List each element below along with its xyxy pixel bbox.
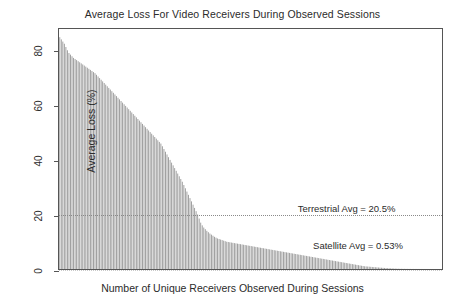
- bar: [168, 157, 169, 269]
- bar: [286, 252, 287, 269]
- bar: [131, 112, 132, 269]
- bar: [311, 257, 312, 269]
- y-tick-label: 0: [29, 258, 47, 284]
- bar: [130, 111, 131, 269]
- bar: [281, 252, 282, 269]
- bar: [346, 263, 347, 269]
- bar: [248, 246, 249, 269]
- y-tick-label: 40: [29, 148, 47, 174]
- bar: [79, 62, 80, 269]
- bar: [262, 248, 263, 269]
- bar: [280, 251, 281, 269]
- bar: [59, 37, 60, 269]
- bar: [217, 238, 218, 269]
- bar: [239, 244, 240, 269]
- bar: [124, 104, 125, 269]
- y-tick-label: 80: [29, 38, 47, 64]
- bar: [167, 154, 168, 269]
- bar: [197, 214, 198, 269]
- y-axis-label: Average Loss (%): [85, 51, 97, 211]
- bar: [321, 259, 322, 269]
- terrestrial-average-line: [59, 215, 442, 216]
- bar: [154, 137, 155, 269]
- bar: [128, 109, 129, 269]
- bar: [208, 232, 209, 269]
- bar: [232, 243, 233, 269]
- bar: [72, 56, 73, 269]
- bar: [147, 129, 148, 269]
- bar: [317, 258, 318, 269]
- bar: [160, 144, 161, 269]
- bar: [191, 201, 192, 269]
- bar: [245, 245, 246, 269]
- bar: [291, 253, 292, 269]
- bar: [294, 254, 295, 269]
- bar: [162, 146, 163, 269]
- bar: [173, 165, 174, 269]
- bar: [228, 242, 229, 269]
- bar: [101, 80, 102, 269]
- bar: [70, 55, 71, 269]
- bar: [309, 256, 310, 269]
- bar: [142, 124, 143, 269]
- bar: [341, 262, 342, 269]
- bar: [324, 259, 325, 269]
- bar: [163, 149, 164, 269]
- bar: [320, 258, 321, 269]
- y-tick-mark: [54, 106, 59, 107]
- bar: [212, 236, 213, 269]
- bar: [102, 81, 103, 269]
- bar: [300, 255, 301, 269]
- bar: [203, 228, 204, 269]
- bar: [334, 261, 335, 269]
- bar: [171, 163, 172, 269]
- bar: [355, 265, 356, 269]
- bar: [229, 242, 230, 269]
- bar: [65, 47, 66, 269]
- bar: [361, 266, 362, 269]
- bar: [315, 258, 316, 269]
- bar: [254, 247, 255, 269]
- bar: [274, 250, 275, 269]
- bar: [231, 243, 232, 269]
- satellite-average-line: [59, 270, 442, 271]
- bar: [144, 126, 145, 269]
- bar: [200, 223, 201, 269]
- bar: [180, 179, 181, 269]
- bar: [263, 248, 264, 269]
- bar: [174, 168, 175, 269]
- bar: [111, 91, 112, 269]
- bar: [125, 106, 126, 269]
- bar: [312, 257, 313, 269]
- bar: [73, 58, 74, 269]
- y-tick-mark: [54, 216, 59, 217]
- bar: [165, 152, 166, 269]
- bar: [157, 140, 158, 269]
- bar: [148, 130, 149, 269]
- bar: [136, 117, 137, 269]
- bar: [298, 255, 299, 269]
- bar: [289, 253, 290, 269]
- bar: [301, 255, 302, 269]
- bar: [271, 250, 272, 269]
- bar: [62, 42, 63, 269]
- bar: [246, 245, 247, 269]
- bar: [349, 264, 350, 269]
- bar: [122, 103, 123, 269]
- bar: [121, 101, 122, 269]
- bar: [64, 44, 65, 269]
- bar: [108, 88, 109, 269]
- y-tick-mark: [54, 51, 59, 52]
- bar: [194, 208, 195, 269]
- bar: [272, 250, 273, 269]
- bar: [284, 252, 285, 269]
- bar: [151, 134, 152, 269]
- bar: [67, 50, 68, 269]
- bar: [82, 64, 83, 269]
- bar: [225, 241, 226, 269]
- bar: [183, 185, 184, 269]
- bar: [326, 259, 327, 269]
- bar: [335, 261, 336, 269]
- bar: [255, 247, 256, 269]
- bar: [68, 53, 69, 269]
